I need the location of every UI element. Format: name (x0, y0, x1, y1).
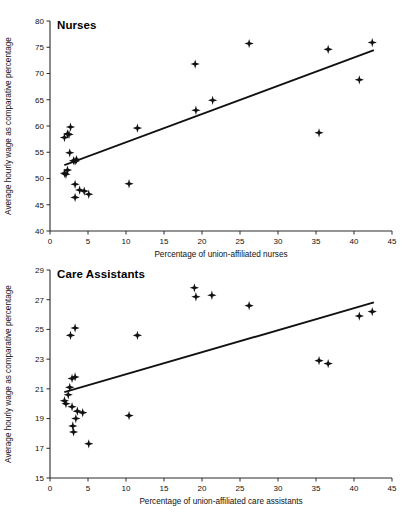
x-axis-tick-label: 0 (48, 237, 53, 246)
x-axis-title: Percentage of union-affiliated care assi… (139, 497, 302, 506)
y-axis-tick-label: 50 (35, 174, 44, 183)
x-axis-tick-label: 25 (236, 484, 245, 493)
y-axis-tick-label: 45 (35, 201, 44, 210)
y-axis-tick-label: 19 (35, 414, 44, 423)
data-point-marker (68, 421, 77, 430)
y-axis-tick-label: 25 (35, 325, 44, 334)
y-axis-tick-label: 55 (35, 148, 44, 157)
x-axis-tick-label: 35 (312, 237, 321, 246)
y-axis-tick-label: 40 (35, 227, 44, 236)
data-point-marker (355, 311, 364, 320)
x-axis-tick-label: 15 (160, 484, 169, 493)
x-axis-tick-label: 30 (274, 484, 283, 493)
data-point-marker (70, 180, 79, 189)
scatter-chart-nurses: 404550556065707580051015202530354045Perc… (0, 0, 406, 260)
data-point-marker (124, 411, 133, 420)
y-axis-tick-label: 29 (35, 266, 44, 275)
x-axis-tick-label: 20 (198, 484, 207, 493)
panel-title: Care Assistants (57, 268, 145, 280)
data-point-group (60, 283, 377, 448)
data-point-marker (191, 59, 200, 68)
y-axis-tick-label: 17 (35, 444, 44, 453)
data-point-marker (368, 307, 377, 316)
x-axis-tick-label: 30 (274, 237, 283, 246)
y-axis-tick-label: 15 (35, 474, 44, 483)
y-axis-tick-label: 75 (35, 43, 44, 52)
data-point-marker (84, 439, 93, 448)
y-axis-tick-label: 65 (35, 96, 44, 105)
x-axis-tick-label: 45 (388, 484, 397, 493)
data-point-marker (66, 331, 75, 340)
data-point-marker (70, 157, 79, 166)
data-point-marker (314, 356, 323, 365)
data-point-marker (324, 45, 333, 54)
data-point-marker (191, 292, 200, 301)
panel-title: Nurses (57, 19, 97, 31)
trend-line (65, 50, 373, 164)
x-axis-tick-label: 10 (122, 237, 131, 246)
y-axis-tick-label: 23 (35, 355, 44, 364)
data-point-marker (190, 283, 199, 292)
scatter-chart-care-assistants: 1517192123252729051015202530354045Percen… (0, 258, 406, 517)
data-point-marker (355, 75, 364, 84)
data-point-marker (191, 106, 200, 115)
y-axis-title: Average hourly wage as comparative perce… (4, 285, 13, 463)
x-axis-tick-label: 25 (236, 237, 245, 246)
data-point-marker (65, 148, 74, 157)
data-point-marker (70, 323, 79, 332)
data-point-marker (208, 96, 217, 105)
data-point-marker (73, 406, 82, 415)
data-point-marker (124, 179, 133, 188)
x-axis-tick-label: 45 (388, 237, 397, 246)
chart-panel-care-assistants: 1517192123252729051015202530354045Percen… (0, 258, 406, 517)
data-point-marker (324, 359, 333, 368)
x-axis-tick-label: 35 (312, 484, 321, 493)
data-point-marker (78, 408, 87, 417)
data-point-marker (368, 38, 377, 47)
x-axis-tick-label: 40 (350, 484, 359, 493)
x-axis-tick-label: 5 (86, 237, 91, 246)
y-axis-tick-label: 21 (35, 385, 44, 394)
x-axis-tick-label: 0 (48, 484, 53, 493)
data-point-marker (71, 414, 80, 423)
data-point-marker (207, 291, 216, 300)
data-point-marker (244, 301, 253, 310)
x-axis-tick-label: 10 (122, 484, 131, 493)
data-point-marker (244, 39, 253, 48)
data-point-marker (133, 123, 142, 132)
data-point-marker (133, 331, 142, 340)
data-point-marker (70, 193, 79, 202)
data-point-group (60, 38, 377, 202)
y-axis-tick-label: 70 (35, 69, 44, 78)
data-point-marker (69, 427, 78, 436)
y-axis-tick-label: 60 (35, 122, 44, 131)
y-axis-tick-label: 27 (35, 296, 44, 305)
x-axis-tick-label: 20 (198, 237, 207, 246)
chart-panel-nurses: 404550556065707580051015202530354045Perc… (0, 0, 406, 260)
x-axis-tick-label: 5 (86, 484, 91, 493)
data-point-marker (314, 128, 323, 137)
y-axis-title: Average hourly wage as comparative perce… (4, 37, 13, 215)
x-axis-tick-label: 40 (350, 237, 359, 246)
y-axis-tick-label: 80 (35, 17, 44, 26)
x-axis-tick-label: 15 (160, 237, 169, 246)
trend-line (65, 303, 373, 392)
